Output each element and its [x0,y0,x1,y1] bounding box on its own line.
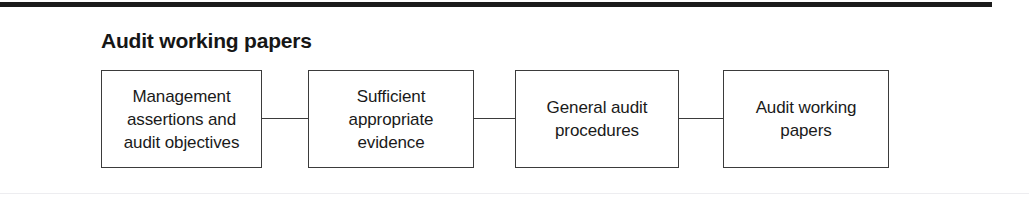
flow-node-label: Sufficient appropriate evidence [343,85,440,154]
flow-node-general-audit-procedures: General audit procedures [515,70,679,168]
flow-diagram: Management assertions and audit objectiv… [0,70,1029,169]
flow-connector-2 [474,118,515,119]
flow-connector-1 [262,118,308,119]
flow-node-label: Management assertions and audit objectiv… [118,85,246,154]
flow-node-audit-working-papers: Audit working papers [723,70,889,168]
flow-node-label: Audit working papers [750,96,863,142]
figure-canvas: Audit working papers Management assertio… [0,0,1029,200]
flow-node-label: General audit procedures [541,96,654,142]
flow-connector-3 [679,118,723,119]
bottom-hairline-rule [0,193,1029,194]
top-black-rule [0,2,992,7]
flow-node-sufficient-appropriate-evidence: Sufficient appropriate evidence [308,70,474,168]
figure-title: Audit working papers [101,29,312,53]
flow-node-management-assertions: Management assertions and audit objectiv… [101,70,262,168]
